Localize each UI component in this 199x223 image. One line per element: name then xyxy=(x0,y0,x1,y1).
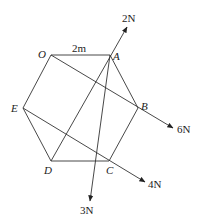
vertex-label-C: C xyxy=(106,164,114,176)
force-6N xyxy=(51,55,173,128)
side-length-label: 2m xyxy=(72,42,87,54)
hexagon-force-diagram: 2N6N4N3NOABCDE2m xyxy=(0,0,199,223)
labels: 2N6N4N3NOABCDE2m xyxy=(10,12,191,216)
force-6N-label: 6N xyxy=(177,123,191,135)
force-4N xyxy=(23,108,145,182)
vertex-label-D: D xyxy=(43,164,52,176)
hexagon xyxy=(23,55,138,161)
force-3N xyxy=(90,55,110,201)
edge-BC xyxy=(109,108,138,161)
force-4N-label: 4N xyxy=(148,178,162,190)
force-3N-label: 3N xyxy=(80,204,94,216)
edge-DE xyxy=(23,108,51,161)
edge-EO xyxy=(23,55,51,108)
force-2N-label: 2N xyxy=(122,12,136,24)
vertex-label-B: B xyxy=(141,100,148,112)
edge-AB xyxy=(110,55,138,108)
vertex-label-E: E xyxy=(10,102,18,114)
vertex-label-O: O xyxy=(38,48,46,60)
vertex-label-A: A xyxy=(112,50,120,62)
